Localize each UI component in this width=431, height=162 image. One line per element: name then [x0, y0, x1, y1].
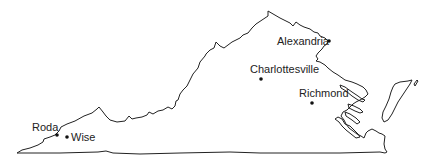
city-label-alexandria: Alexandria [277, 35, 330, 47]
city-label-richmond: Richmond [299, 87, 349, 99]
eastern-shore [382, 80, 412, 122]
city-label-wise: Wise [71, 131, 95, 143]
chincoteague-island [414, 80, 418, 86]
virginia-map: AlexandriaCharlottesvilleRichmondRodaWis… [0, 0, 431, 162]
city-dot-richmond [310, 101, 314, 105]
city-label-roda: Roda [32, 121, 59, 133]
city-label-charlottesville: Charlottesville [250, 63, 319, 75]
city-dot-wise [65, 135, 69, 139]
city-dot-charlottesville [259, 77, 263, 81]
city-markers: AlexandriaCharlottesvilleRichmondRodaWis… [32, 35, 349, 143]
river-middle [348, 104, 363, 113]
river-york [345, 112, 360, 124]
river-james [335, 117, 360, 138]
city-dot-roda [55, 133, 59, 137]
